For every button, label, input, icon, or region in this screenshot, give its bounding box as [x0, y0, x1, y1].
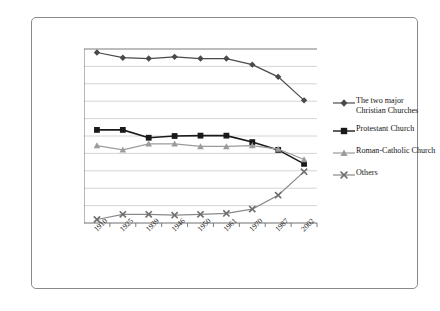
data-point — [172, 133, 178, 139]
series-2 — [94, 141, 308, 163]
legend-marker-diamond-icon — [332, 97, 356, 109]
x-axis-tick-label: 1970 — [247, 216, 264, 233]
x-axis-tick-label: 1961 — [221, 216, 238, 233]
legend-marker-square-icon — [332, 125, 356, 137]
legend-label: Protestant Church — [356, 124, 414, 134]
legend-item-roman-catholic-church[interactable]: Roman-Catholic Church — [332, 146, 440, 159]
data-point — [120, 127, 126, 133]
data-point — [197, 55, 203, 61]
data-point — [120, 55, 126, 61]
legend-marker-x-icon — [332, 169, 356, 181]
data-point — [223, 55, 229, 61]
data-point — [223, 133, 229, 139]
series-line — [97, 172, 304, 220]
chart-frame: 0%10%20%30%40%50%60%70%80%90%100%1910192… — [31, 17, 418, 289]
chart-legend: The two major Christian Churches Protest… — [332, 96, 440, 190]
x-axis-tick-label: 2002 — [299, 216, 316, 233]
data-point — [275, 192, 281, 198]
x-axis-tick-label: 1946 — [170, 216, 187, 233]
data-point — [146, 135, 152, 141]
line-chart-svg: 0%10%20%30%40%50%60%70%80%90%100%1910192… — [84, 45, 321, 257]
series-3 — [94, 169, 307, 223]
x-axis-tick-label: 1950 — [196, 216, 213, 233]
plot-area: 0%10%20%30%40%50%60%70%80%90%100%1910192… — [84, 45, 321, 257]
legend-item-protestant-church[interactable]: Protestant Church — [332, 124, 440, 137]
legend-item-two-major-christian-churches[interactable]: The two major Christian Churches — [332, 96, 440, 115]
data-point — [94, 142, 101, 148]
x-axis-tick-label: 1925 — [118, 216, 135, 233]
data-point — [94, 49, 100, 55]
legend-label: Roman-Catholic Church — [356, 146, 435, 156]
legend-label: The two major Christian Churches — [356, 96, 418, 115]
x-axis-tick-label: 1987 — [273, 216, 290, 233]
legend-marker-triangle-icon — [332, 147, 356, 159]
legend-label: Others — [356, 168, 378, 178]
data-point — [146, 55, 152, 61]
x-axis-tick-label: 1939 — [144, 216, 161, 233]
series-0 — [94, 49, 308, 103]
data-point — [198, 133, 204, 139]
data-point — [301, 169, 307, 175]
data-point — [94, 127, 100, 133]
data-point — [249, 61, 255, 67]
data-point — [171, 54, 177, 60]
legend-item-others[interactable]: Others — [332, 168, 440, 181]
